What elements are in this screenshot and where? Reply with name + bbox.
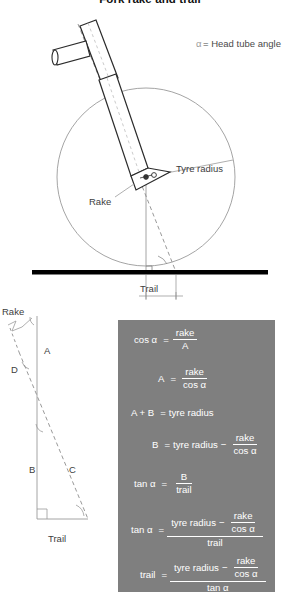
head-tube-angle-arc [158, 256, 167, 264]
label-trail: Trail [140, 283, 158, 294]
equals-sign: = [159, 525, 165, 535]
fraction: rake cos α [231, 556, 260, 579]
fraction: B trail [171, 472, 196, 495]
fraction: rake A [173, 328, 198, 351]
formula-b: B = tyre radius − rake cos α [152, 433, 261, 456]
triangle-hypotenuse-c [19, 352, 88, 519]
fraction-denominator: A [179, 340, 191, 351]
label-triangle-trail: Trail [48, 533, 66, 544]
formula-rhs: tyre radius [169, 408, 214, 418]
fraction-numerator: rake [173, 328, 198, 340]
compound-fraction: tyre radius − rake cos α tan α [170, 556, 266, 592]
label-side-c: C [69, 464, 76, 475]
fraction-numerator: rake [182, 367, 207, 379]
compound-denominator: trail [207, 537, 222, 548]
formula-lhs: cos α [134, 335, 157, 345]
fraction-denominator: cos α [230, 445, 259, 456]
label-side-a: A [44, 345, 50, 356]
fraction-numerator: rake [231, 511, 256, 523]
top-tube-stub [52, 41, 90, 65]
formula-lhs: tan α [134, 479, 156, 489]
formula-lhs: trail [140, 570, 155, 580]
label-side-b: B [29, 464, 35, 475]
compound-denominator: tan α [207, 582, 229, 592]
formula-lhs: A + B [131, 408, 154, 418]
formula-lhs: B [152, 440, 158, 450]
fraction-denominator: cos α [231, 568, 260, 579]
compound-fraction: tyre radius − rake cos α trail [167, 511, 263, 548]
fraction: rake cos α [230, 433, 259, 456]
ground-line [32, 270, 268, 275]
fraction-numerator: rake [233, 433, 258, 445]
formula-a: A = rake cos α [158, 367, 210, 390]
label-triangle-rake: Rake [2, 306, 24, 317]
label-side-d: D [11, 364, 18, 375]
fraction-denominator: trail [171, 484, 196, 495]
formula-term: tyre radius [171, 518, 216, 528]
equals-sign: = [161, 570, 167, 580]
fraction: rake cos α [229, 511, 258, 534]
rake-leader-line [115, 184, 134, 197]
minus-sign: − [222, 563, 228, 573]
formula-tan-alpha-expanded: tan α = tyre radius − rake cos α trail [131, 511, 263, 548]
formula-panel: cos α = rake A A = rake cos α A + B = [118, 320, 275, 592]
fraction-denominator: cos α [180, 379, 209, 390]
formula-lhs: A [158, 374, 164, 384]
formula-lhs: tan α [131, 525, 153, 535]
equals-sign: = [164, 440, 170, 450]
equals-sign: = [170, 374, 176, 384]
fraction-numerator: B [176, 472, 192, 484]
formula-list: cos α = rake A A = rake cos α A + B = [118, 320, 275, 592]
formula-cos-alpha: cos α = rake A [134, 328, 198, 351]
formula-tan-alpha: tan α = B trail [134, 472, 198, 495]
fraction: rake cos α [180, 367, 209, 390]
triangle-angle-bottom-right [76, 505, 84, 516]
figure-fork-rake-and-trail: Fork rake and trail α= Head tube angle [0, 0, 300, 599]
minus-sign: − [219, 518, 225, 528]
compound-numerator: tyre radius − rake cos α [167, 511, 263, 537]
label-tyre-radius: Tyre radius [176, 163, 223, 174]
fork-blade [99, 74, 148, 176]
formula-term: tyre radius [173, 440, 218, 450]
rake-zigzag-mark [8, 318, 32, 331]
formula-trail: trail = tyre radius − rake cos α tan α [140, 556, 266, 592]
label-rake: Rake [89, 196, 111, 207]
formula-a-plus-b: A + B = tyre radius [131, 408, 214, 418]
compound-numerator: tyre radius − rake cos α [170, 556, 266, 582]
fraction-denominator: cos α [229, 523, 258, 534]
equals-sign: = [163, 335, 169, 345]
equals-sign: = [162, 479, 168, 489]
formula-term: tyre radius [174, 563, 219, 573]
minus-sign: − [221, 440, 227, 450]
equals-sign: = [160, 408, 166, 418]
triangle-right-angle [37, 509, 47, 519]
fraction-numerator: rake [234, 556, 259, 568]
